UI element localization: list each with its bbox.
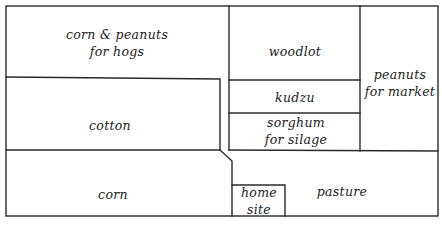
divider-hogs-cotton: [6, 77, 220, 150]
field-corn: corn: [98, 186, 128, 203]
label-line: for market: [365, 83, 435, 100]
field-pasture: pasture: [317, 183, 367, 200]
label-line: peanuts: [365, 66, 435, 83]
label-line: woodlot: [269, 43, 321, 60]
label-line: site: [241, 201, 277, 218]
label-line: sorghum: [265, 114, 327, 131]
label-line: kudzu: [275, 89, 315, 106]
label-line: cotton: [89, 117, 131, 134]
divider-center-diagonal: [220, 150, 232, 216]
field-woodlot: woodlot: [269, 43, 321, 60]
label-line: corn & peanuts: [66, 26, 168, 43]
label-line: corn: [98, 186, 128, 203]
field-peanuts-market: peanuts for market: [365, 66, 435, 100]
field-cotton: cotton: [89, 117, 131, 134]
field-sorghum-silage: sorghum for silage: [265, 114, 327, 148]
label-line: for hogs: [66, 43, 168, 60]
label-line: for silage: [265, 131, 327, 148]
field-corn-peanuts-hogs: corn & peanuts for hogs: [66, 26, 168, 60]
label-line: pasture: [317, 183, 367, 200]
label-line: home: [241, 184, 277, 201]
field-kudzu: kudzu: [275, 89, 315, 106]
field-home-site: home site: [241, 184, 277, 218]
divider-sorghum-pasture: [229, 150, 438, 151]
